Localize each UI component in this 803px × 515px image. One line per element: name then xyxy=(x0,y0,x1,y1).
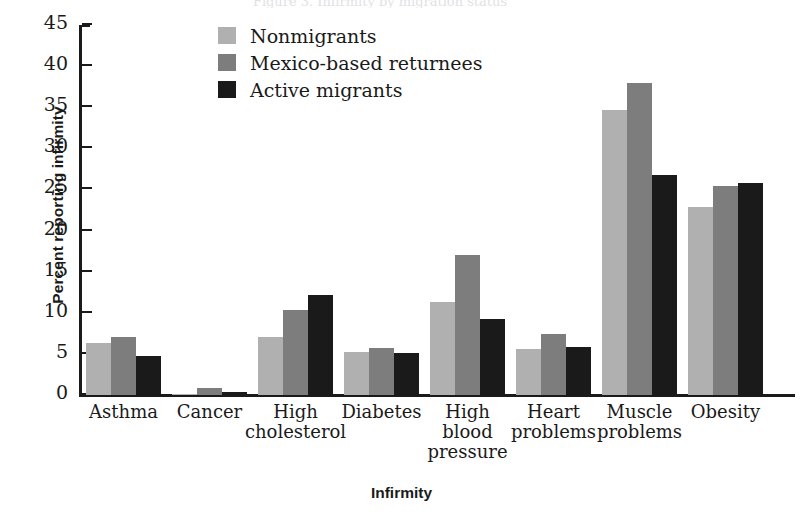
bar xyxy=(602,110,627,395)
bar xyxy=(394,353,419,395)
bar xyxy=(308,295,333,395)
y-tick-label-45: 45 xyxy=(20,11,68,33)
y-tick-label-10: 10 xyxy=(20,299,68,321)
legend-label: Nonmigrants xyxy=(250,25,377,47)
x-category-label-line: problems xyxy=(580,422,700,442)
y-tick-label-40: 40 xyxy=(20,52,68,74)
legend: NonmigrantsMexico-based returneesActive … xyxy=(218,22,482,103)
bar-group xyxy=(688,25,763,395)
x-category-label-line: cholesterol xyxy=(236,422,356,442)
bar xyxy=(541,334,566,395)
legend-item: Active migrants xyxy=(218,76,482,103)
bar-chart: Figure 3. Infirmity by migration status … xyxy=(0,0,803,515)
bar-group xyxy=(86,25,161,395)
bar xyxy=(713,186,738,395)
legend-swatch xyxy=(218,81,236,98)
y-tick-label-20: 20 xyxy=(20,217,68,239)
bar xyxy=(136,356,161,395)
legend-swatch xyxy=(218,27,236,44)
y-tick-label-35: 35 xyxy=(20,93,68,115)
legend-label: Active migrants xyxy=(250,79,402,101)
bar xyxy=(258,337,283,395)
bar xyxy=(172,394,197,396)
y-tick-label-5: 5 xyxy=(20,340,68,362)
bar-group xyxy=(516,25,591,395)
bar xyxy=(86,343,111,395)
bar-group xyxy=(602,25,677,395)
x-category-label-line: Obesity xyxy=(666,402,786,422)
bar xyxy=(197,388,222,395)
y-tick-label-25: 25 xyxy=(20,175,68,197)
bar xyxy=(222,392,247,395)
bar xyxy=(344,352,369,395)
bar xyxy=(111,337,136,395)
y-tick-label-15: 15 xyxy=(20,258,68,280)
bar xyxy=(480,319,505,395)
bar xyxy=(627,83,652,395)
x-category-label-line: pressure xyxy=(408,442,528,462)
legend-item: Mexico-based returnees xyxy=(218,49,482,76)
figure-title-cutoff: Figure 3. Infirmity by migration status xyxy=(150,0,610,8)
y-tick-label-0: 0 xyxy=(20,381,68,403)
bar xyxy=(688,207,713,395)
legend-swatch xyxy=(218,54,236,71)
bar xyxy=(738,183,763,395)
bar xyxy=(566,347,591,396)
legend-item: Nonmigrants xyxy=(218,22,482,49)
bar xyxy=(369,348,394,395)
x-axis-title: Infirmity xyxy=(0,484,803,502)
bar xyxy=(430,302,455,395)
legend-label: Mexico-based returnees xyxy=(250,52,482,74)
bar xyxy=(516,349,541,395)
bar xyxy=(652,175,677,395)
bar xyxy=(283,310,308,396)
y-tick-label-30: 30 xyxy=(20,134,68,156)
x-category-label: Obesity xyxy=(666,402,786,422)
bar xyxy=(455,255,480,395)
